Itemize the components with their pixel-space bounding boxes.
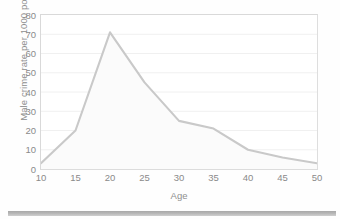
x-tick-label: 45: [270, 172, 296, 184]
y-axis-tick-labels: 01020304050607080: [14, 14, 36, 170]
x-tick-label: 30: [166, 172, 192, 184]
y-tick-label: 10: [16, 144, 36, 155]
x-axis-tick-labels: 101520253035404550: [40, 172, 318, 186]
y-tick-label: 30: [16, 106, 36, 117]
area-fill: [41, 32, 317, 169]
x-tick-label: 40: [235, 172, 261, 184]
y-tick-label: 20: [16, 125, 36, 136]
x-tick-label: 25: [132, 172, 158, 184]
y-tick-label: 50: [16, 67, 36, 78]
y-tick-label: 70: [16, 29, 36, 40]
chart-svg: [41, 15, 317, 169]
x-tick-label: 15: [63, 172, 89, 184]
y-tick-label: 40: [16, 87, 36, 98]
y-tick-label: 80: [16, 10, 36, 21]
chart-page: Male crime rate per 1000 population 0102…: [0, 0, 340, 219]
x-axis-title: Age: [40, 190, 318, 201]
x-tick-label: 35: [201, 172, 227, 184]
page-edge-bar: [8, 211, 336, 216]
plot-area: [40, 14, 318, 170]
x-tick-label: 50: [304, 172, 330, 184]
x-tick-label: 10: [28, 172, 54, 184]
x-tick-label: 20: [97, 172, 123, 184]
y-tick-label: 60: [16, 48, 36, 59]
